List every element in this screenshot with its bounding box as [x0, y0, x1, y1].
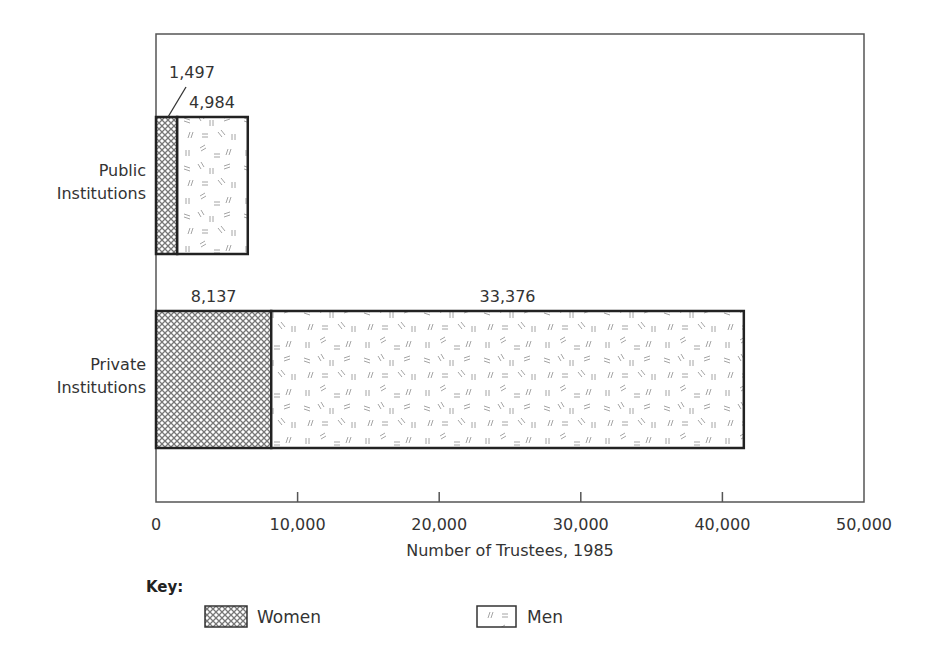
x-tick-label: 40,000: [694, 515, 750, 534]
x-tick-label: 50,000: [836, 515, 892, 534]
legend-label-men: Men: [527, 607, 563, 627]
x-tick-label: 0: [151, 515, 161, 534]
x-axis-tick-labels: 010,00020,00030,00040,00050,000: [151, 515, 892, 534]
legend-title: Key:: [146, 578, 183, 596]
x-tick-label: 20,000: [411, 515, 467, 534]
category-label-private-line1: Private: [90, 355, 146, 374]
bar-segment-men: [177, 117, 248, 254]
bar-public-institutions: 1,497 4,984: [156, 63, 248, 254]
x-tick-label: 30,000: [553, 515, 609, 534]
bar-segment-women: [156, 311, 271, 448]
x-axis-label: Number of Trustees, 1985: [406, 541, 614, 560]
bar-private-institutions: 8,137 33,376: [156, 287, 744, 448]
chart: 010,00020,00030,00040,00050,000 Number o…: [0, 0, 945, 655]
x-tick-label: 10,000: [270, 515, 326, 534]
legend-swatch-women: [205, 606, 247, 627]
bar-segment-men: [271, 311, 744, 448]
leader-line: [168, 87, 186, 117]
x-axis-ticks: [298, 492, 723, 502]
category-label-public-line2: Institutions: [57, 184, 146, 203]
legend-label-women: Women: [257, 607, 321, 627]
bar-segment-women: [156, 117, 177, 254]
value-label-public-men: 4,984: [189, 93, 235, 112]
legend-swatch-men: [477, 606, 516, 627]
value-label-private-men: 33,376: [480, 287, 536, 306]
value-label-private-women: 8,137: [191, 287, 237, 306]
value-label-public-women: 1,497: [169, 63, 215, 82]
legend: Key: Women Men: [146, 578, 563, 627]
category-label-private-line2: Institutions: [57, 378, 146, 397]
category-label-public-line1: Public: [99, 161, 146, 180]
